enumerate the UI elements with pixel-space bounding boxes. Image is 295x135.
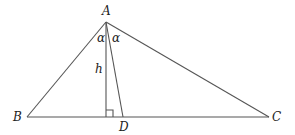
label-h: h (95, 62, 103, 76)
label-alpha-left: α (97, 31, 105, 45)
side-ac (106, 22, 269, 117)
triangle-diagram: A B C D h α α (0, 0, 295, 135)
label-b: B (12, 110, 22, 124)
label-a: A (101, 4, 111, 18)
label-c: C (272, 110, 281, 124)
label-alpha-right: α (112, 31, 120, 45)
label-d: D (118, 120, 129, 134)
right-angle-marker (106, 110, 113, 117)
